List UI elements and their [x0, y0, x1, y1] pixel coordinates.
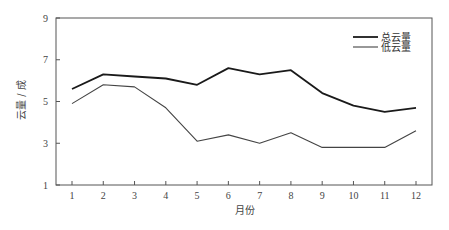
x-tick-label: 6	[226, 190, 231, 201]
series-line-low-cloud	[72, 85, 416, 148]
x-tick-label: 8	[288, 190, 293, 201]
x-tick-label: 7	[257, 190, 262, 201]
series-line-total-cloud	[72, 68, 416, 112]
x-tick-label: 10	[348, 190, 358, 201]
x-tick-label: 4	[163, 190, 168, 201]
x-tick-label: 2	[101, 190, 106, 201]
y-tick-label: 7	[43, 54, 48, 65]
series-lines	[72, 68, 416, 147]
x-axis-label: 月份	[235, 205, 255, 216]
legend-label-low: 低云量	[381, 41, 411, 53]
x-tick-label: 3	[132, 190, 137, 201]
x-tick-label: 1	[70, 190, 75, 201]
y-axis: 13579	[43, 13, 60, 191]
plot-area	[56, 18, 432, 185]
x-tick-label: 12	[411, 190, 421, 201]
y-tick-label: 3	[43, 138, 48, 149]
y-axis-label: 云量 / 成	[16, 80, 27, 120]
y-tick-label: 9	[43, 13, 48, 24]
x-tick-label: 11	[380, 190, 390, 201]
cloud-cover-chart: 13579 123456789101112 月份 云量 / 成 总云量 低云量	[0, 0, 449, 230]
chart-canvas: 13579 123456789101112 月份 云量 / 成 总云量 低云量	[0, 0, 449, 230]
y-tick-label: 1	[43, 180, 48, 191]
x-tick-label: 9	[320, 190, 325, 201]
x-axis: 123456789101112	[70, 181, 422, 201]
y-tick-label: 5	[43, 96, 48, 107]
x-tick-label: 5	[195, 190, 200, 201]
legend: 总云量 低云量	[353, 31, 411, 53]
